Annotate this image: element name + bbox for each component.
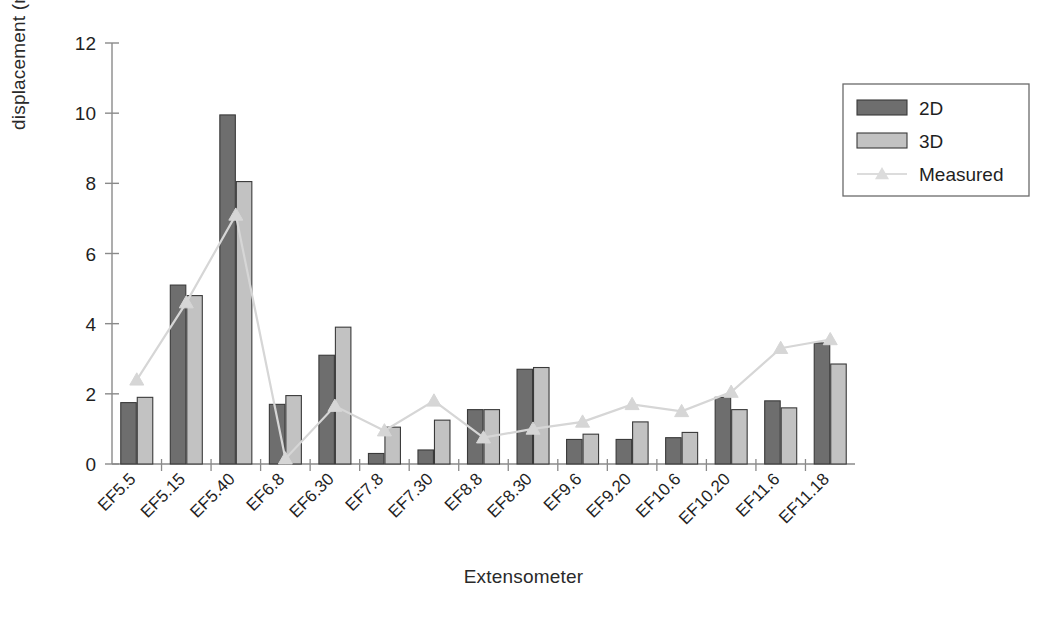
bar-2d xyxy=(765,401,781,464)
legend-label: 2D xyxy=(919,98,943,119)
x-axis-category-label: EF6.30 xyxy=(286,469,338,521)
x-axis-category-label: EF8.8 xyxy=(441,469,487,515)
bar-3d xyxy=(781,408,797,464)
legend-swatch-2d xyxy=(857,100,907,115)
x-axis-category-label: EF11.18 xyxy=(775,469,833,527)
x-axis-category-label: EF8.30 xyxy=(484,469,536,521)
x-axis-category-label: EF6.8 xyxy=(243,469,289,515)
series-marker-measured xyxy=(823,332,837,344)
series-marker-measured xyxy=(130,373,144,385)
x-axis-title: Extensometer xyxy=(0,566,1047,588)
legend-swatch-3d xyxy=(857,133,907,148)
chart-figure: displacement (mm) 024681012EF5.5EF5.15EF… xyxy=(0,0,1047,631)
legend-label: Measured xyxy=(919,164,1004,185)
y-axis-tick-label: 8 xyxy=(85,173,96,194)
y-axis-tick-label: 10 xyxy=(75,103,96,124)
y-axis-tick-label: 0 xyxy=(85,454,96,475)
y-axis-tick-label: 2 xyxy=(85,384,96,405)
x-axis-category-label: EF9.6 xyxy=(540,469,586,515)
bar-2d xyxy=(517,369,533,464)
bar-3d xyxy=(534,368,550,464)
bar-3d xyxy=(434,420,450,464)
bar-3d xyxy=(732,410,748,464)
bar-2d xyxy=(616,439,632,464)
y-axis-tick-label: 4 xyxy=(85,314,96,335)
bar-2d xyxy=(814,343,830,464)
series-marker-measured xyxy=(625,397,639,409)
bar-2d xyxy=(715,397,731,464)
bar-3d xyxy=(286,396,302,464)
x-axis-category-label: EF10.20 xyxy=(675,469,734,528)
x-axis-category-label: EF5.15 xyxy=(137,469,189,521)
bar-2d xyxy=(170,285,186,464)
x-axis-category-label: EF5.40 xyxy=(186,469,238,521)
legend-label: 3D xyxy=(919,131,943,152)
bar-2d xyxy=(418,450,434,464)
bar-3d xyxy=(187,296,203,464)
bar-3d xyxy=(335,327,351,464)
bar-3d xyxy=(831,364,847,464)
x-axis-category-label: EF9.20 xyxy=(583,469,635,521)
bar-3d xyxy=(682,432,698,464)
series-marker-measured xyxy=(427,394,441,406)
bar-3d xyxy=(583,434,599,464)
bar-2d xyxy=(368,453,384,464)
bar-2d xyxy=(567,439,583,464)
y-axis-tick-label: 6 xyxy=(85,244,96,265)
bar-3d xyxy=(633,422,649,464)
x-axis-category-label: EF5.5 xyxy=(94,469,140,515)
bar-2d xyxy=(666,438,682,464)
bar-2d xyxy=(220,115,236,464)
plot-area: 024681012EF5.5EF5.15EF5.40EF6.8EF6.30EF7… xyxy=(0,0,1047,560)
bar-2d xyxy=(121,403,136,464)
bar-3d xyxy=(137,397,153,464)
y-axis-tick-label: 12 xyxy=(75,33,96,54)
x-axis-category-label: EF7.30 xyxy=(385,469,437,521)
x-axis-category-label: EF7.8 xyxy=(342,469,388,515)
